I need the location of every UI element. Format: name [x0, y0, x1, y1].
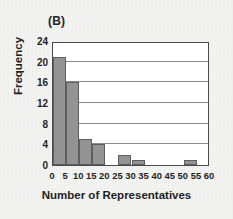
- bar: [66, 82, 79, 165]
- figure: (B) Frequency 04812162024 05101520253035…: [0, 0, 233, 219]
- bar-series: [53, 43, 208, 165]
- bar: [53, 57, 66, 166]
- bar: [132, 160, 145, 165]
- y-tick-label: 24: [18, 36, 48, 47]
- panel-label: (B): [48, 14, 65, 28]
- plot-area: [52, 42, 209, 166]
- y-tick-label: 16: [18, 77, 48, 88]
- bar: [92, 144, 105, 165]
- y-tick-label: 20: [18, 57, 48, 68]
- y-tick-label: 8: [18, 119, 48, 130]
- bar: [79, 139, 92, 165]
- y-tick-label: 12: [18, 98, 48, 109]
- bar: [118, 155, 131, 165]
- x-axis-title: Number of Representatives: [0, 189, 233, 201]
- bar: [184, 160, 197, 165]
- y-tick-label: 4: [18, 139, 48, 150]
- x-tick-label: 60: [198, 170, 220, 181]
